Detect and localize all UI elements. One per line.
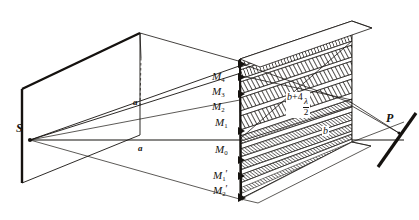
- zone-label-m2-prime-mark: ′: [226, 183, 228, 194]
- zone-label-m3: M3: [212, 86, 225, 99]
- zone-label-m0: M0: [215, 144, 228, 157]
- observation-screen: [352, 103, 416, 167]
- zone-label-m2-sub: 2: [221, 106, 224, 113]
- zone-label-m2-prime-letter: M: [213, 184, 222, 196]
- zone-label-m3-letter: M: [212, 85, 221, 97]
- path-length-lower-label: b: [322, 126, 329, 136]
- source-point: [28, 138, 32, 142]
- zone-label-m1-letter: M: [215, 116, 224, 128]
- wavefront-plane-outline: [22, 33, 140, 183]
- path-length-two: 2: [303, 108, 310, 117]
- zone-label-m4-letter: M: [212, 70, 221, 82]
- zone-label-m0-sub: 0: [224, 149, 227, 156]
- zone-label-m3-sub: 3: [221, 91, 224, 98]
- zone-label-m1-sub: 1: [224, 122, 227, 129]
- path-length-upper-label: b+4λ2: [286, 92, 310, 118]
- zone-label-m1-prime-letter: M: [213, 169, 222, 181]
- left-wavefront-plane: [22, 33, 141, 183]
- source-label: S: [16, 122, 23, 134]
- screen-point-p: [398, 132, 401, 135]
- zone-label-m4-sub: 4: [221, 76, 224, 83]
- ray-plane-top-to-plate: [140, 33, 242, 62]
- zone-label-m2-prime: M2′: [213, 184, 228, 198]
- path-length-fraction: λ2: [303, 97, 310, 117]
- zone-label-m0-letter: M: [215, 143, 224, 155]
- zone-label-m1-prime: M1′: [213, 169, 228, 183]
- distance-a-lower-label: a: [138, 144, 143, 153]
- distance-a-upper-label: a: [133, 98, 138, 107]
- path-length-lambda: λ: [303, 97, 309, 106]
- ray-to-plate-base: [30, 140, 243, 200]
- zone-label-m1-prime-mark: ′: [226, 168, 228, 179]
- zone-label-m4: M4: [212, 71, 225, 84]
- zone-label-m2: M2: [212, 101, 225, 114]
- zone-label-m2-letter: M: [212, 100, 221, 112]
- zone-label-m1: M1: [215, 117, 228, 130]
- fresnel-zone-plate-figure: [0, 0, 419, 220]
- screen-point-label: P: [386, 112, 393, 124]
